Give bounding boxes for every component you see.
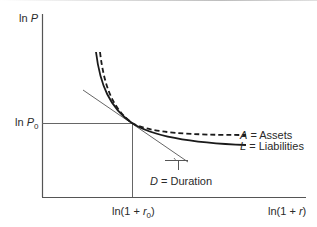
assets-curve: [100, 52, 246, 135]
y-axis-label: ln P: [19, 13, 38, 24]
x-tick-r0-label: ln(1 + r0): [112, 206, 155, 220]
legend-duration: D = Duration: [150, 176, 212, 187]
y-tick-p0-label: ln P0: [15, 117, 38, 131]
liabilities-curve: [96, 52, 246, 145]
legend-liabilities: L = Liabilities: [240, 141, 304, 152]
x-axis-label: ln(1 + r): [268, 206, 306, 217]
duration-diagram: [0, 0, 317, 227]
